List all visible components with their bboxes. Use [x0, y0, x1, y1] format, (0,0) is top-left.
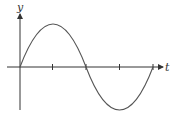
x-axis-label: t	[165, 61, 170, 74]
sine-wave-diagram: y t	[0, 0, 173, 126]
y-axis-label: y	[16, 1, 24, 14]
